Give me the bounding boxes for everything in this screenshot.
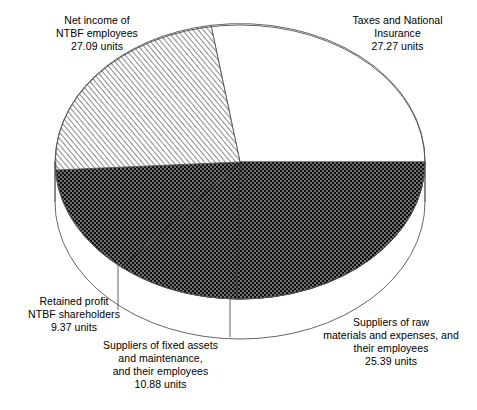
- pie-label-retained-profit: Retained profit NTBF shareholders 9.37 u…: [8, 295, 140, 334]
- pie-label-raw-materials: Suppliers of raw materials and expenses,…: [307, 316, 475, 368]
- pie-label-taxes: Taxes and National Insurance 27.27 units: [325, 14, 470, 53]
- pie-chart-figure: Net income of NTBF employees 27.09 units…: [0, 0, 477, 410]
- pie-label-net-income: Net income of NTBF employees 27.09 units: [22, 14, 172, 53]
- pie-slice-raw-materials[interactable]: [237, 162, 425, 299]
- pie-label-fixed-assets: Suppliers of fixed assets and maintenanc…: [78, 339, 243, 391]
